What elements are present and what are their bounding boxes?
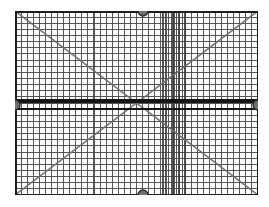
grid-panel-svg (15, 11, 258, 195)
screenshot-canvas: Wire Grid Panel (0, 0, 269, 207)
mount-knob-right[interactable] (253, 100, 258, 110)
mount-knob-top[interactable] (138, 11, 148, 16)
mount-knob-bottom[interactable] (138, 190, 148, 195)
dense-vertical-band (163, 11, 185, 195)
grid-panel[interactable] (15, 11, 258, 195)
scene-title: Wire Grid Panel (0, 0, 1, 1)
mount-knob-left[interactable] (15, 100, 20, 110)
